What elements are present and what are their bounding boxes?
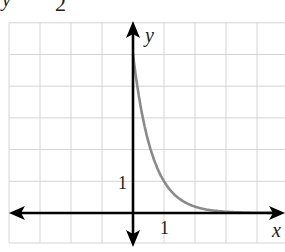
function-curve	[133, 55, 273, 213]
title-fragment-2: 2	[55, 0, 66, 16]
labels: y 2 y x 1 1	[0, 0, 281, 241]
y-tick-label-1: 1	[118, 173, 127, 193]
title-fragment-y: y	[0, 0, 11, 11]
curve-layer	[133, 55, 273, 213]
chart-canvas: y 2 y x 1 1	[0, 0, 285, 252]
x-tick-label-1: 1	[160, 218, 169, 238]
y-axis-label: y	[143, 24, 154, 47]
x-axis-label: x	[271, 219, 281, 241]
exponential-graph: y 2 y x 1 1	[0, 0, 285, 252]
